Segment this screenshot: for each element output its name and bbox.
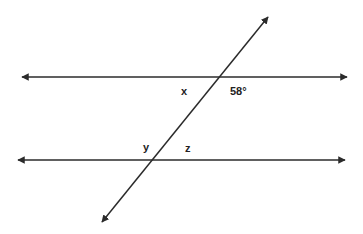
- angle-label-z: z: [185, 142, 191, 154]
- angle-label-x: x: [181, 85, 188, 97]
- angle-label-58: 58°: [230, 85, 247, 97]
- transversal-line: [102, 17, 268, 222]
- parallel-lines-transversal-diagram: x 58° y z: [0, 0, 363, 234]
- angle-label-y: y: [143, 141, 150, 153]
